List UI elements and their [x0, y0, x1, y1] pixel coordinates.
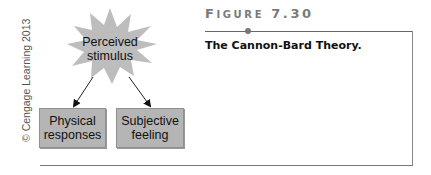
node-label-line2: feeling: [121, 128, 179, 142]
arrow-to-physical: [74, 77, 93, 106]
figure-label-rest: IGURE: [216, 9, 264, 20]
node-label-line1: Physical: [44, 114, 102, 128]
node-label-line1: Perceived: [80, 35, 140, 49]
node-perceived-stimulus: Perceived stimulus: [80, 35, 140, 63]
node-physical-responses: Physical responses: [39, 108, 106, 148]
node-label-line2: stimulus: [80, 49, 140, 63]
figure-bottom-rule: [40, 165, 413, 166]
diagram-canvas: [0, 0, 431, 175]
caption-rule-dot: [245, 28, 251, 34]
figure-title: The Cannon-Bard Theory.: [205, 39, 362, 52]
arrow-to-subjective: [129, 77, 150, 106]
figure-label-prefix: F: [205, 6, 216, 21]
figure-label: FIGURE 7.30: [205, 6, 314, 21]
node-label-line2: responses: [44, 128, 102, 142]
node-subjective-feeling: Subjective feeling: [116, 108, 184, 148]
node-label-line1: Subjective: [121, 114, 179, 128]
caption-top-rule: [205, 31, 412, 32]
caption-right-rule: [412, 31, 413, 166]
figure-number: 7.30: [271, 6, 313, 21]
